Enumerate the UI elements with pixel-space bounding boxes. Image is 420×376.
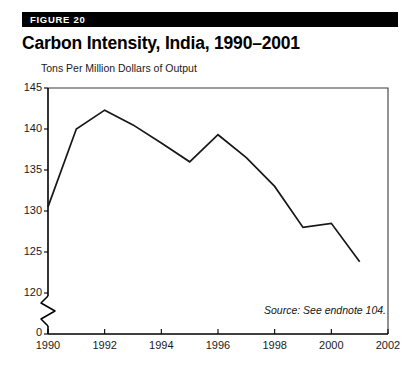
- x-axis-tick-label: 1994: [139, 339, 183, 351]
- y-axis-tick-label: 130: [16, 204, 42, 216]
- y-axis-tick-label: 125: [16, 245, 42, 257]
- x-axis-tick-label: 1996: [196, 339, 240, 351]
- chart-plot: [0, 0, 420, 376]
- data-series-line: [48, 110, 360, 262]
- x-axis-tick-label: 2000: [309, 339, 353, 351]
- x-axis-tick-label: 1990: [26, 339, 70, 351]
- x-axis-tick-label: 2002: [366, 339, 410, 351]
- y-axis-tick-label: 120: [16, 286, 42, 298]
- source-note: Source: See endnote 104.: [264, 304, 386, 316]
- plot-frame-border: [48, 88, 388, 334]
- plot-frame: [41, 88, 388, 334]
- x-axis-tick-label: 1992: [83, 339, 127, 351]
- y-axis-tick-label: 135: [16, 163, 42, 175]
- figure-card: FIGURE 20 Carbon Intensity, India, 1990–…: [0, 0, 420, 376]
- y-axis-zero-label: 0: [16, 326, 42, 338]
- y-axis-tick-label: 145: [16, 81, 42, 93]
- y-axis-tick-label: 140: [16, 122, 42, 134]
- y-axis-break-icon: [41, 296, 55, 326]
- x-axis-tick-label: 1998: [253, 339, 297, 351]
